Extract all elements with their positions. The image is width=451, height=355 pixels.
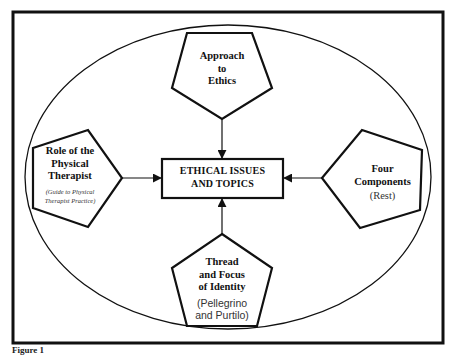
node-left-label: Role of the Physical Therapist (Guide to… bbox=[30, 145, 110, 205]
node-left-sub2: Therapist Practice) bbox=[30, 196, 110, 205]
node-top-line1: Approach bbox=[182, 50, 262, 63]
node-left-line1: Role of the bbox=[30, 145, 110, 158]
node-bottom-line3: of Identity bbox=[177, 281, 267, 294]
node-right-sub: (Rest) bbox=[340, 190, 425, 203]
node-right-label: Four Components (Rest) bbox=[340, 163, 425, 203]
node-left-sub1: (Guide to Physical bbox=[30, 187, 110, 196]
node-right-line1: Four bbox=[340, 163, 425, 176]
center-label: ETHICAL ISSUES AND TOPICS bbox=[162, 165, 283, 190]
node-bottom-line2: and Focus bbox=[177, 269, 267, 282]
figure-caption: Figure 1 bbox=[12, 345, 44, 355]
node-top-label: Approach to Ethics bbox=[182, 50, 262, 88]
center-line1: ETHICAL ISSUES bbox=[162, 165, 283, 178]
node-top-line2: to bbox=[182, 63, 262, 76]
node-right-line2: Components bbox=[340, 176, 425, 189]
node-left-line3: Therapist bbox=[30, 170, 110, 183]
node-top-line3: Ethics bbox=[182, 75, 262, 88]
node-bottom-sub2: and Purtilo) bbox=[177, 309, 267, 322]
node-bottom-label: Thread and Focus of Identity (Pellegrino… bbox=[177, 256, 267, 322]
node-bottom-line1: Thread bbox=[177, 256, 267, 269]
node-left-line2: Physical bbox=[30, 158, 110, 171]
center-line2: AND TOPICS bbox=[162, 178, 283, 191]
node-bottom-sub1: (Pellegrino bbox=[177, 297, 267, 310]
